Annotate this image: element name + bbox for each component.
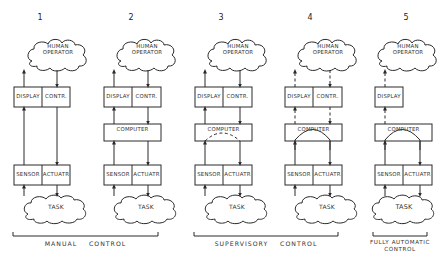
panel-1 (14, 39, 86, 223)
computer-label-4: COMPUTER (285, 127, 342, 133)
task-label-2: TASK (126, 204, 166, 211)
caption-manual-control: MANUAL CONTROL (13, 240, 158, 247)
display-label-1: DISPLAY (14, 94, 42, 100)
sensor-label-2: SENSOR (104, 172, 132, 178)
computer-label-2: COMPUTER (104, 127, 161, 133)
task-label-3: TASK (217, 204, 257, 211)
control-label-4: CONTR. (313, 94, 342, 100)
panel-number-2: 2 (121, 13, 141, 22)
actuator-label-5: ACTUATR (403, 172, 432, 178)
display-label-4: DISPLAY (285, 94, 313, 100)
computer-label-3: COMPUTER (195, 127, 252, 133)
actuator-label-3: ACTUATR (223, 172, 252, 178)
control-label-1: CONTR. (42, 94, 70, 100)
bracket-automatic (373, 232, 427, 236)
actuator-label-2: ACTUATR (132, 172, 161, 178)
control-label-2: CONTR. (132, 94, 161, 100)
caption-supervisory-control: SUPERVISORY CONTROL (194, 240, 338, 247)
caption-fully-automatic-control: FULLY AUTOMATIC CONTROL (362, 239, 438, 252)
operator-label-2: HUMANOPERATOR (117, 44, 177, 56)
display-label-2: DISPLAY (104, 94, 132, 100)
panel-number-4: 4 (300, 13, 320, 22)
sensor-label-1: SENSOR (14, 172, 42, 178)
operator-label-4: HUMANOPERATOR (298, 44, 358, 56)
computer-label-5: COMPUTER (375, 127, 432, 133)
task-label-1: TASK (36, 204, 76, 211)
task-label-4: TASK (307, 204, 347, 211)
sensor-label-3: SENSOR (195, 172, 223, 178)
operator-label-1: HUMANOPERATOR (28, 44, 88, 56)
task-label-5: TASK (384, 204, 424, 211)
panel-number-1: 1 (30, 13, 50, 22)
sensor-label-5: SENSOR (375, 172, 403, 178)
actuator-label-1: ACTUATR (42, 172, 70, 178)
display-label-3: DISPLAY (195, 94, 223, 100)
panel-number-3: 3 (211, 13, 231, 22)
panel-number-5: 5 (396, 13, 416, 22)
operator-label-5: HUMANOPERATOR (378, 44, 438, 56)
operator-label-3: HUMANOPERATOR (208, 44, 268, 56)
bracket-manual (13, 232, 158, 236)
control-label-3: CONTR. (223, 94, 252, 100)
bracket-supervisory (194, 232, 338, 236)
actuator-label-4: ACTUATR (313, 172, 342, 178)
display-label-5: DISPLAY (375, 94, 403, 100)
sensor-label-4: SENSOR (285, 172, 313, 178)
